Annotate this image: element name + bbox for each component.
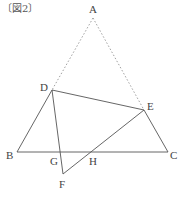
segment-DB: [17, 90, 52, 152]
segment-AE: [93, 18, 144, 110]
segment-EC: [144, 110, 168, 152]
label-A: A: [89, 3, 97, 15]
label-H: H: [89, 155, 97, 167]
label-F: F: [59, 178, 65, 190]
label-B: B: [6, 149, 13, 161]
segment-EF: [63, 110, 144, 174]
segment-DE: [52, 90, 144, 110]
label-G: G: [50, 155, 58, 167]
label-D: D: [40, 81, 48, 93]
segment-AD: [52, 18, 93, 90]
label-E: E: [147, 100, 154, 112]
geometry-diagram: A D E B C G H F: [0, 0, 183, 200]
label-C: C: [170, 149, 177, 161]
